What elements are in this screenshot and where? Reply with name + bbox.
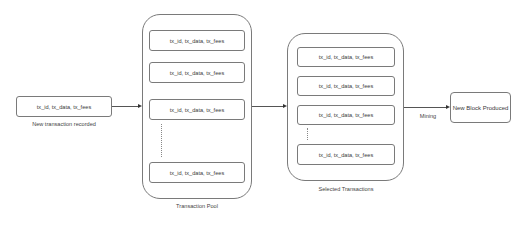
pool-transaction-item: tx_id, tx_data, tx_fees bbox=[149, 62, 245, 83]
selected-transaction-item: tx_id, tx_data, tx_fees bbox=[297, 105, 395, 125]
pool-transaction-item: tx_id, tx_data, tx_fees bbox=[149, 99, 245, 120]
edge-new-to-pool-line bbox=[112, 106, 139, 107]
new-transaction-caption: New transaction recorded bbox=[32, 121, 96, 127]
selected-item-text: tx_id, tx_data, tx_fees bbox=[319, 83, 373, 89]
transaction-pool-caption: Transaction Pool bbox=[176, 203, 218, 209]
new-block-text: New Block Produced bbox=[453, 105, 509, 111]
selected-item-text: tx_id, tx_data, tx_fees bbox=[319, 112, 373, 118]
edge-selected-to-block-line bbox=[404, 107, 446, 108]
pool-item-text: tx_id, tx_data, tx_fees bbox=[170, 170, 224, 176]
new-block-node: New Block Produced bbox=[450, 92, 511, 123]
selected-item-text: tx_id, tx_data, tx_fees bbox=[319, 152, 373, 158]
pool-item-text: tx_id, tx_data, tx_fees bbox=[170, 107, 224, 113]
mining-edge-label: Mining bbox=[420, 113, 436, 119]
ellipsis-dotted-line bbox=[307, 128, 308, 140]
selected-transaction-item: tx_id, tx_data, tx_fees bbox=[297, 47, 395, 67]
new-transaction-text: tx_id, tx_data, tx_fees bbox=[37, 104, 91, 110]
pool-transaction-item: tx_id, tx_data, tx_fees bbox=[149, 30, 245, 51]
new-transaction-node: tx_id, tx_data, tx_fees bbox=[16, 96, 112, 117]
selected-transactions-caption: Selected Transactions bbox=[318, 186, 373, 192]
pool-transaction-item: tx_id, tx_data, tx_fees bbox=[149, 162, 245, 183]
edge-pool-to-selected-line bbox=[252, 106, 284, 107]
selected-transaction-item: tx_id, tx_data, tx_fees bbox=[297, 76, 395, 96]
selected-item-text: tx_id, tx_data, tx_fees bbox=[319, 54, 373, 60]
selected-transaction-item: tx_id, tx_data, tx_fees bbox=[297, 144, 395, 165]
pool-item-text: tx_id, tx_data, tx_fees bbox=[170, 70, 224, 76]
ellipsis-dotted-line bbox=[161, 124, 162, 157]
pool-item-text: tx_id, tx_data, tx_fees bbox=[170, 38, 224, 44]
